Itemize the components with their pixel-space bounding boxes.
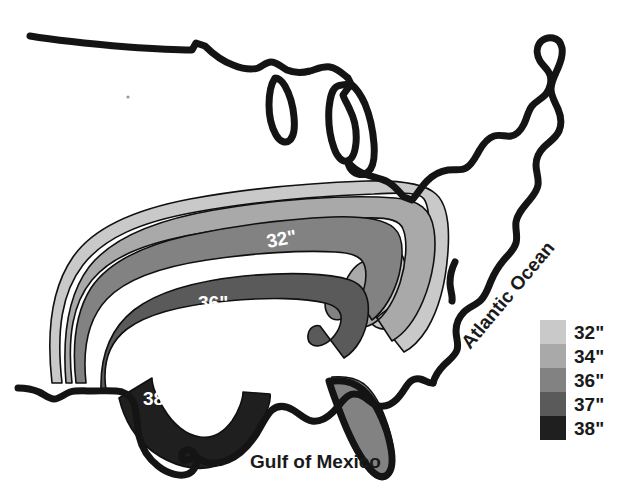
- contour-label-37: 37": [178, 341, 208, 362]
- contour-label-38: 38": [143, 388, 173, 409]
- contour-band-37: [101, 274, 368, 390]
- legend-swatch-37: [540, 392, 566, 416]
- scan-speck: [126, 95, 129, 98]
- legend-swatch-column: [540, 320, 566, 440]
- legend: 32" 34" 36" 37" 38": [540, 320, 604, 440]
- legend-label-38: 38": [574, 418, 604, 439]
- legend-label-34: 34": [574, 346, 604, 367]
- legend-label-column: 32" 34" 36" 37" 38": [574, 322, 604, 439]
- legend-swatch-34: [540, 344, 566, 368]
- legend-label-32: 32": [574, 322, 604, 343]
- legend-label-37: 37": [574, 394, 604, 415]
- legend-label-36: 36": [574, 370, 604, 391]
- legend-swatch-36: [540, 368, 566, 392]
- precipitation-contour-map: 32" 34" 36" 37" 38" Atlantic Ocean Gulf …: [0, 0, 618, 496]
- chesapeake-bay-notch: [450, 262, 455, 301]
- lake-michigan-shoreline: [269, 78, 294, 142]
- contour-label-36: 36": [198, 292, 228, 313]
- contour-label-34: 34": [243, 252, 275, 276]
- legend-swatch-38: [540, 416, 566, 440]
- legend-swatch-32: [540, 320, 566, 344]
- gulf-of-mexico-label: Gulf of Mexico: [250, 451, 381, 472]
